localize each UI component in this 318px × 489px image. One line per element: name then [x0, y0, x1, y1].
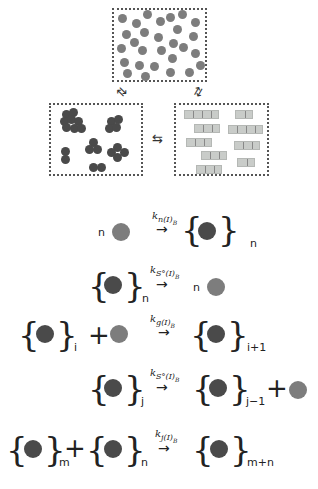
subscript: j — [141, 395, 144, 408]
right-brace: } — [227, 317, 249, 351]
monomer-dot — [140, 28, 149, 37]
monomer-dot — [191, 49, 200, 58]
coefficient: n — [98, 226, 105, 239]
monomer-dot — [117, 44, 126, 53]
monomer-dot — [185, 68, 194, 77]
monomer-dot — [132, 19, 141, 28]
monomer-dot — [118, 14, 127, 23]
monomer-box — [112, 8, 207, 82]
monomer-dot — [141, 72, 150, 81]
subscript: n — [250, 237, 257, 250]
aggregate-circle — [36, 325, 54, 343]
reaction-arrow: → — [158, 440, 170, 456]
plus-sign: + — [88, 322, 110, 348]
monomer-dot — [122, 30, 131, 39]
aggregate-circle — [207, 325, 225, 343]
monomer-dot — [166, 13, 175, 22]
subscript: j−1 — [246, 395, 265, 408]
reaction-arrow: → — [156, 276, 168, 292]
monomer-circle — [112, 223, 130, 241]
monomer-dot — [150, 62, 159, 71]
subscript: m+n — [247, 456, 274, 469]
plus-sign: + — [64, 435, 86, 461]
equilibrium-arrow-left: ⇅ — [114, 84, 130, 100]
fibril-box — [174, 103, 269, 176]
monomer-dot — [143, 10, 152, 19]
monomer-dot — [166, 68, 175, 77]
aggregate-circle — [210, 440, 228, 458]
equilibrium-arrow-middle: ⇆ — [152, 132, 163, 145]
aggregate-box — [49, 103, 143, 176]
aggregate-circle — [24, 440, 42, 458]
monomer-dot — [178, 10, 187, 19]
monomer-dot — [157, 46, 166, 55]
monomer-dot — [156, 17, 165, 26]
monomer-dot — [189, 32, 198, 41]
monomer-dot — [168, 54, 177, 63]
monomer-dot — [123, 69, 132, 78]
aggregate-circle — [209, 379, 227, 397]
monomer-dot — [173, 25, 182, 34]
monomer-dot — [135, 61, 144, 70]
plus-sign: + — [266, 375, 288, 401]
monomer-circle — [207, 278, 225, 296]
aggregate-circle — [104, 276, 122, 294]
subscript: i+1 — [247, 341, 266, 354]
coefficient: n — [193, 281, 200, 294]
subscript: n — [142, 292, 149, 305]
subscript: n — [141, 456, 148, 469]
right-brace: } — [218, 212, 240, 246]
aggregate-circle — [104, 379, 122, 397]
monomer-dot — [130, 38, 139, 47]
aggregate-circle — [104, 440, 122, 458]
monomer-circle — [110, 325, 128, 343]
monomer-dot — [196, 61, 205, 70]
reaction-arrow: → — [156, 379, 168, 395]
equilibrium-arrow-right: ⇅ — [191, 84, 206, 99]
subscript: i — [74, 341, 77, 354]
monomer-dot — [191, 18, 200, 27]
aggregate-circle — [198, 222, 216, 240]
monomer-dot — [154, 33, 163, 42]
monomer-dot — [179, 43, 188, 52]
reaction-arrow: → — [156, 221, 168, 237]
reaction-arrow: → — [158, 324, 170, 340]
monomer-dot — [120, 58, 129, 67]
monomer-dot — [138, 46, 147, 55]
monomer-dot — [169, 39, 178, 48]
monomer-circle — [289, 381, 307, 399]
